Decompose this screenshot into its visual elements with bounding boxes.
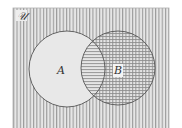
- venn-diagram: 𝒰 A B: [0, 0, 182, 128]
- set-b-label: B: [113, 64, 122, 77]
- set-a-label: A: [56, 64, 65, 77]
